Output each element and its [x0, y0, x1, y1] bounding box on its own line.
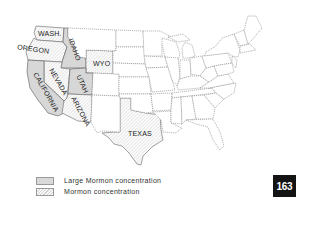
state-colorado: [92, 73, 119, 96]
state-new-jersey: [232, 56, 237, 68]
legend-item-large: Large Mormon concentration: [36, 175, 161, 186]
legend-label: Mormon concentration: [64, 188, 140, 195]
state-new-mexico: [91, 95, 120, 133]
state-new-york: [204, 34, 240, 57]
state-kansas: [119, 77, 151, 94]
state-iowa: [144, 56, 168, 68]
state-massachusetts-ri-ct: [240, 44, 256, 53]
state-indiana: [180, 60, 191, 79]
label-texas: TEXAS: [128, 130, 152, 137]
state-florida: [186, 119, 224, 150]
page-number-badge: 163: [273, 175, 296, 197]
label-wyo: WYO: [93, 60, 111, 67]
state-mississippi: [171, 97, 182, 124]
state-north-dakota: [116, 30, 144, 47]
label-wash: WASH.: [38, 30, 62, 37]
swatch-concentration: [36, 188, 54, 196]
swatch-large-concentration: [36, 177, 54, 185]
legend-item-mormon: Mormon concentration: [36, 186, 161, 197]
map-legend: Large Mormon concentration Mormon concen…: [36, 175, 161, 197]
state-arkansas: [151, 93, 172, 111]
state-south-dakota: [113, 47, 145, 64]
legend-label: Large Mormon concentration: [64, 177, 161, 184]
